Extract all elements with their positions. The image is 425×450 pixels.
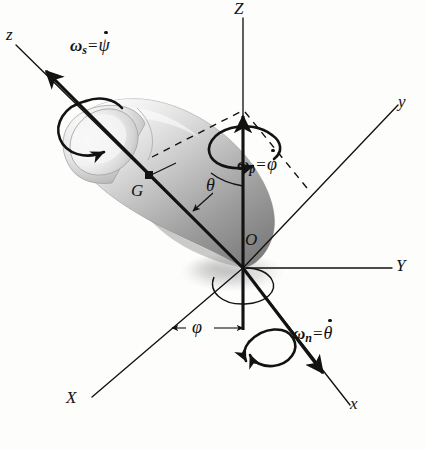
psi-dot: ψ	[99, 36, 110, 54]
axis-label-Y: Y	[396, 257, 405, 274]
axis-label-Z: Z	[234, 0, 243, 17]
theta-dot-overdot	[328, 319, 331, 322]
axis-line-y	[243, 105, 398, 268]
theta-symbol: θ	[324, 323, 333, 343]
spin-rate-label: ωs=ψ	[70, 36, 110, 56]
nutation-rate-label: ωn=θ	[293, 324, 332, 344]
figure-canvas	[0, 0, 425, 450]
axis-label-X: X	[66, 389, 76, 406]
axis-label-x: x	[350, 395, 358, 412]
phi-dot-overdot	[271, 149, 274, 152]
phi-dot: φ	[267, 155, 277, 173]
vector-nutation	[243, 268, 323, 373]
axis-line-X	[92, 268, 243, 397]
angle-label-phi: φ	[192, 318, 202, 336]
omega-p-equals: =	[255, 155, 267, 174]
omega-n-subscript: n	[305, 331, 312, 345]
point-label-G: G	[131, 182, 143, 199]
axis-label-z: z	[6, 26, 13, 43]
theta-dot: θ	[324, 324, 333, 342]
angle-label-theta: θ	[206, 176, 215, 194]
phi-symbol: φ	[267, 154, 277, 174]
omega-n-symbol: ω	[293, 324, 305, 343]
nutation-rotation-arrow	[244, 329, 295, 366]
omega-s-symbol: ω	[70, 36, 82, 55]
axis-label-y: y	[398, 93, 406, 110]
precession-rate-label: ωp=φ	[237, 155, 277, 175]
omega-s-equals: =	[87, 36, 99, 55]
psi-dot-overdot	[104, 31, 107, 34]
omega-p-symbol: ω	[237, 155, 249, 174]
omega-n-equals: =	[312, 324, 324, 343]
point-label-O: O	[245, 231, 257, 248]
psi-symbol: ψ	[99, 35, 110, 55]
gyroscope-euler-angle-figure: Z y Y x X z G O θ φ ωs=ψ ωp=φ ωn=θ	[0, 0, 425, 450]
